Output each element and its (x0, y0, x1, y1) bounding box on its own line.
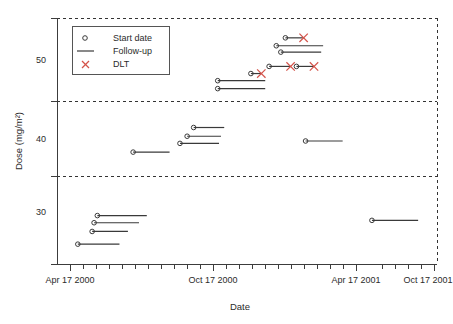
y-axis-title: Dose (mg/m²) (13, 112, 24, 170)
x-minor-ticks (70, 264, 421, 269)
y-axis: 50 40 30 Dose (mg/m²) (13, 18, 57, 264)
x-tick-label-apr-2000: Apr 17 2000 (45, 275, 94, 285)
dose-escalation-chart: 50 40 30 Dose (mg/m²) (0, 0, 453, 324)
patient-track (215, 86, 265, 91)
patient-track (185, 134, 221, 139)
legend-label-start-date: Start date (113, 33, 152, 43)
chart-legend: Start date Follow-up DLT (72, 26, 169, 74)
patient-track (274, 43, 323, 48)
patient-track (178, 141, 219, 146)
x-tick-label-apr-2001: Apr 17 2001 (331, 275, 380, 285)
patient-track (131, 150, 170, 155)
patient-track (249, 69, 266, 77)
x-tick-label-oct-2001: Oct 17 2001 (403, 275, 452, 285)
patient-track (283, 34, 308, 42)
patient-track (215, 78, 265, 83)
patient-track (303, 139, 342, 144)
patient-track (92, 220, 139, 225)
patient-track (279, 50, 322, 55)
patient-track (191, 125, 224, 130)
legend-label-follow-up: Follow-up (113, 46, 152, 56)
y-tick-label-50: 50 (36, 55, 46, 65)
chart-canvas: 50 40 30 Dose (mg/m²) (0, 0, 453, 324)
patient-track (76, 242, 120, 247)
patient-track (95, 213, 147, 218)
x-axis: Apr 17 2000 Oct 17 2000 Apr 17 2001 Oct … (45, 264, 452, 312)
patient-track (267, 62, 295, 70)
patient-track (294, 62, 318, 70)
patient-track (370, 218, 418, 223)
x-tick-label-oct-2000: Oct 17 2000 (188, 275, 237, 285)
legend-label-dlt: DLT (113, 59, 130, 69)
x-axis-title: Date (230, 301, 250, 312)
y-tick-label-30: 30 (36, 207, 46, 217)
y-tick-label-40: 40 (36, 134, 46, 144)
patient-track (90, 229, 128, 234)
